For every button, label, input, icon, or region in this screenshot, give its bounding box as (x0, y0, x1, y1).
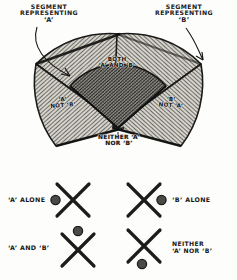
legend-label-b-alone: ‘B’ ALONE (172, 197, 211, 204)
legend-label-neither: NEITHER ‘A’ NOR ‘B’ (172, 241, 212, 254)
legend-item-neither: NEITHER ‘A’ NOR ‘B’ (122, 222, 234, 274)
legend-item-a-alone: ‘A’ ALONE (8, 174, 120, 226)
x-mark-a-alone (49, 178, 95, 222)
region-neither-line2: NOR ‘B’ (84, 140, 154, 146)
legend-label-a-alone: ‘A’ ALONE (8, 197, 45, 204)
region-both-line2: ‘A’ AND ‘B’ (86, 63, 148, 69)
legend-b-alone-line1: ‘B’ ALONE (172, 197, 211, 204)
dot-marker-west (51, 195, 60, 204)
legend-neither-line2: ‘A’ NOR ‘B’ (172, 248, 212, 255)
region-label-neither: NEITHER ‘A’ NOR ‘B’ (84, 134, 154, 146)
legend-a-and-b-line1: ‘A’ AND ‘B’ (8, 245, 50, 252)
x-mark-a-and-b (54, 226, 100, 270)
dot-marker-north (73, 226, 82, 235)
legend-label-a-and-b: ‘A’ AND ‘B’ (8, 245, 50, 252)
dot-marker-south (137, 259, 146, 268)
legend-a-alone-line1: ‘A’ ALONE (8, 197, 45, 204)
legend-item-b-alone: ‘B’ ALONE (122, 174, 234, 226)
x-mark-neither (122, 226, 168, 270)
legend-item-a-and-b: ‘A’ AND ‘B’ (8, 222, 120, 274)
dot-marker-east (157, 195, 166, 204)
region-label-both: BOTH ‘A’ AND ‘B’ (86, 57, 148, 69)
legend-panel: ‘A’ ALONE ‘B’ ALONE ‘A’ AND ‘B’ (0, 172, 237, 280)
x-mark-b-alone (122, 178, 168, 222)
venn-sector-diagram: BOTH ‘A’ AND ‘B’ ‘A’ NOT ‘B’ ‘B’ NOT ‘A’… (0, 0, 237, 172)
figure-page: SEGMENT REPRESENTING ‘A’ SEGMENT REPRESE… (0, 0, 237, 280)
